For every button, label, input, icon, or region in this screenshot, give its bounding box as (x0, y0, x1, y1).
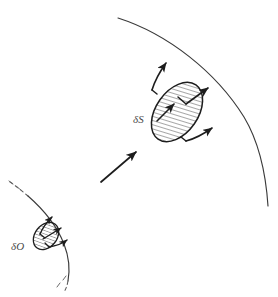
label-surface-element: δS (133, 113, 144, 125)
surface-area-patch (141, 73, 213, 151)
diagram-svg (0, 0, 278, 297)
figure-canvas: δS δO (0, 0, 278, 297)
label-solid-angle-element: δO (11, 240, 24, 252)
normal-vector-top (152, 63, 166, 90)
projection-arrow (101, 152, 136, 182)
